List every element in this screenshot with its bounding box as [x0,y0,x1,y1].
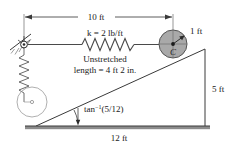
dimension-arrow-right-icon [165,15,172,20]
ghost-disk-center-icon [30,100,33,103]
unstretched-label-line1: Unstretched [83,54,127,64]
horizontal-spring-group [28,39,161,51]
angle-label-value: (5/12) [101,104,123,114]
ground-group [25,126,210,129]
angle-label-prefix: tan [84,104,95,114]
bottom-dimension-group: 12 ft [111,133,128,143]
vertical-spring-group [19,48,29,102]
dimension-arrow-left-icon [25,15,32,20]
figure-canvas: 10 ft [0,0,229,145]
mechanics-figure: 10 ft [0,0,229,145]
spring-labels-group: k = 2 lb/ft Unstretched length = 4 ft 2 … [74,28,137,75]
radius-label: 1 ft [190,26,203,36]
hatch-tick [15,48,19,55]
angle-annotation-group: tan−1(5/12) [74,104,123,126]
right-dimension-group: 5 ft [212,84,225,94]
ghost-disk-group [17,87,47,117]
disk-center-dot-icon [171,42,175,46]
ghost-disk-outline [17,87,47,117]
angle-arrow-head-icon [76,120,80,126]
spring-coil-horizontal [82,39,134,51]
bottom-dimension-label: 12 ft [111,133,128,143]
unstretched-label-line2: length = 4 ft 2 in. [74,65,137,75]
spring-constant-label: k = 2 lb/ft [87,28,123,38]
angle-label: tan−1(5/12) [84,104,123,115]
hatch-tick [11,49,15,54]
right-dimension-label: 5 ft [212,84,225,94]
disk-center-label: C [170,47,177,57]
pin-joint-center-icon [23,43,26,46]
top-dimension-label: 10 ft [88,12,105,22]
